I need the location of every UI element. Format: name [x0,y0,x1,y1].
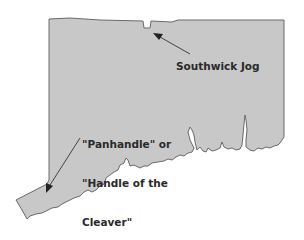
panhandle-label-line1: "Panhandle" or [82,138,171,151]
panhandle-label-line3: Cleaver" [82,216,171,229]
panhandle-label: "Panhandle" or "Handle of the Cleaver" [82,112,171,240]
panhandle-label-line2: "Handle of the [82,177,171,190]
southwick-jog-label: Southwick Jog [176,60,260,73]
